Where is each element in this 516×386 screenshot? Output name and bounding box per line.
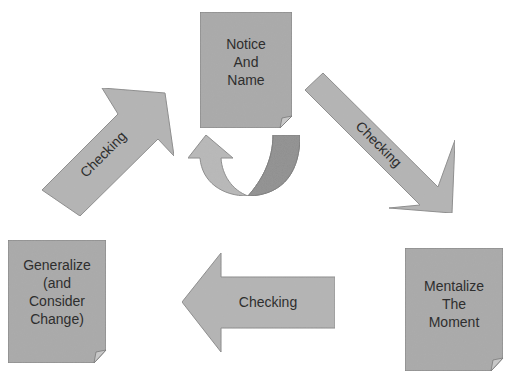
node-label-line: Generalize — [23, 257, 91, 273]
node-label-line: Moment — [429, 314, 480, 330]
node-label-line: Change) — [30, 311, 84, 327]
node-label-line: Mentalize — [424, 278, 484, 294]
arrow-notice-to-mentalize: Checking — [305, 73, 455, 213]
node-generalize-and-consider-change: Generalize (and Consider Change) — [8, 240, 106, 363]
folded-corner-icon — [280, 116, 292, 128]
node-label-line: And — [234, 54, 259, 70]
node-label-line: (and — [43, 275, 71, 291]
arrow-mentalize-to-generalize: Checking — [182, 253, 335, 352]
node-label-line: Consider — [29, 293, 85, 309]
node-label-line: Name — [227, 72, 265, 88]
node-label-line: The — [442, 296, 466, 312]
document-box — [200, 12, 292, 128]
node-mentalize-the-moment: Mentalize The Moment — [405, 248, 503, 371]
node-label-line: Notice — [226, 36, 266, 52]
cycle-diagram: Notice And Name Mentalize The Moment Gen… — [0, 0, 516, 386]
curved-return-arrow-front-icon — [248, 135, 300, 196]
arrow-label: Checking — [239, 294, 297, 310]
node-notice-and-name: Notice And Name — [200, 12, 292, 128]
self-loop-notice — [188, 135, 300, 196]
folded-corner-icon — [94, 350, 106, 363]
folded-corner-icon — [491, 358, 503, 371]
arrow-generalize-to-notice: Checking — [42, 88, 174, 216]
